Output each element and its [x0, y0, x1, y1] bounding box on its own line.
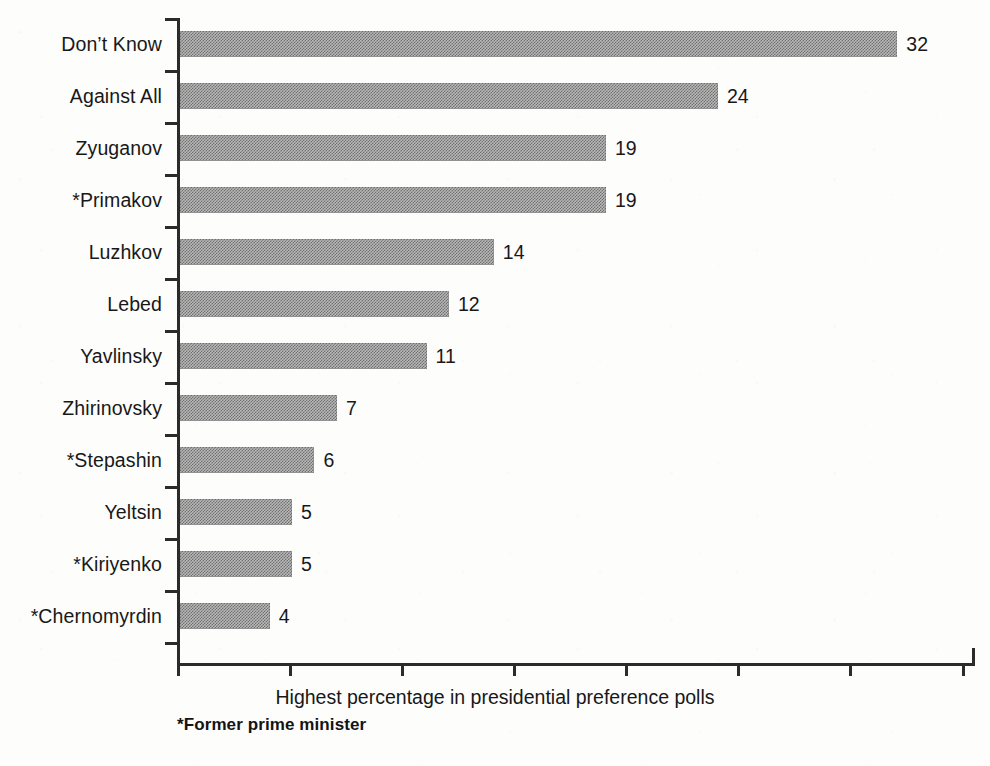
- x-axis-tick: [962, 663, 965, 676]
- y-axis-tick: [165, 18, 177, 21]
- bar: [180, 31, 897, 57]
- bar: [180, 551, 292, 577]
- bar-and-value: 14: [180, 239, 525, 265]
- bar-value-label: 4: [279, 605, 290, 628]
- x-axis-tick: [177, 663, 180, 676]
- bar-value-label: 7: [346, 397, 357, 420]
- category-label: Against All: [70, 85, 162, 108]
- bar-and-value: 6: [180, 447, 334, 473]
- bar: [180, 499, 292, 525]
- bar-and-value: 12: [180, 291, 480, 317]
- bar-and-value: 32: [180, 31, 928, 57]
- bar-value-label: 5: [301, 553, 312, 576]
- x-axis-tick: [401, 663, 404, 676]
- bar-and-value: 4: [180, 603, 290, 629]
- bar-chart: Don’t Know32Against All24Zyuganov19*Prim…: [0, 0, 990, 766]
- category-label: Yavlinsky: [80, 345, 162, 368]
- x-axis-tick: [513, 663, 516, 676]
- bar: [180, 343, 427, 369]
- x-axis-title: Highest percentage in presidential prefe…: [0, 686, 990, 709]
- bar: [180, 603, 270, 629]
- x-axis-line: [177, 663, 975, 666]
- y-axis-tick: [165, 382, 177, 385]
- y-axis-tick: [165, 330, 177, 333]
- bar-and-value: 11: [180, 343, 456, 369]
- bar-value-label: 19: [615, 189, 637, 212]
- category-label: *Primakov: [72, 189, 162, 212]
- bar-row: *Chernomyrdin4: [177, 590, 975, 642]
- category-label: Zhirinovsky: [62, 397, 162, 420]
- bar-row: Lebed12: [177, 278, 975, 330]
- bar-and-value: 5: [180, 499, 312, 525]
- x-axis-tick: [289, 663, 292, 676]
- bar-value-label: 19: [615, 137, 637, 160]
- category-label: *Kiriyenko: [73, 553, 162, 576]
- bar-row: Don’t Know32: [177, 18, 975, 70]
- bar-row: Yavlinsky11: [177, 330, 975, 382]
- x-axis-tick: [625, 663, 628, 676]
- x-axis-tick: [737, 663, 740, 676]
- bar-row: Against All24: [177, 70, 975, 122]
- bar-value-label: 14: [503, 241, 525, 264]
- bar-and-value: 5: [180, 551, 312, 577]
- y-axis-tick: [165, 174, 177, 177]
- bar-value-label: 6: [323, 449, 334, 472]
- bar-and-value: 24: [180, 83, 749, 109]
- bar: [180, 447, 314, 473]
- bar-value-label: 24: [727, 85, 749, 108]
- y-axis-tick: [165, 486, 177, 489]
- y-axis-tick: [165, 642, 177, 645]
- category-label: Yeltsin: [105, 501, 162, 524]
- bar-row: *Kiriyenko5: [177, 538, 975, 590]
- y-axis-tick: [165, 538, 177, 541]
- category-label: Lebed: [107, 293, 162, 316]
- bar-row: *Primakov19: [177, 174, 975, 226]
- y-axis-tick: [165, 590, 177, 593]
- bar: [180, 83, 718, 109]
- bar-value-label: 32: [906, 33, 928, 56]
- y-axis-tick: [165, 226, 177, 229]
- category-label: Luzhkov: [89, 241, 162, 264]
- bar: [180, 291, 449, 317]
- x-axis-tick: [849, 663, 852, 676]
- x-axis-end-cap: [972, 648, 975, 666]
- category-label: *Stepashin: [67, 449, 162, 472]
- y-axis-tick: [165, 70, 177, 73]
- y-axis-tick: [165, 122, 177, 125]
- bar-row: *Stepashin6: [177, 434, 975, 486]
- bar-row: Zhirinovsky7: [177, 382, 975, 434]
- bar-value-label: 5: [301, 501, 312, 524]
- category-label: *Chernomyrdin: [31, 605, 162, 628]
- bar-row: Zyuganov19: [177, 122, 975, 174]
- bar-and-value: 19: [180, 187, 637, 213]
- chart-footnote: *Former prime minister: [177, 715, 366, 735]
- category-label: Zyuganov: [76, 137, 162, 160]
- y-axis-tick: [165, 434, 177, 437]
- bar-value-label: 12: [458, 293, 480, 316]
- bar: [180, 395, 337, 421]
- bar: [180, 187, 606, 213]
- y-axis-tick: [165, 278, 177, 281]
- bar-row: Yeltsin5: [177, 486, 975, 538]
- bar: [180, 135, 606, 161]
- bar-row: Luzhkov14: [177, 226, 975, 278]
- bar-and-value: 19: [180, 135, 637, 161]
- category-label: Don’t Know: [61, 33, 162, 56]
- bar-value-label: 11: [436, 345, 456, 368]
- bar-and-value: 7: [180, 395, 357, 421]
- bar: [180, 239, 494, 265]
- plot-area: Don’t Know32Against All24Zyuganov19*Prim…: [177, 18, 975, 663]
